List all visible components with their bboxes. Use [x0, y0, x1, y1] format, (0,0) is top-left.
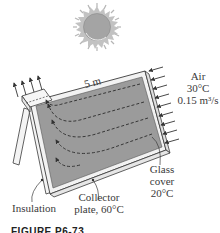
- insulation-label: Insulation: [12, 202, 56, 214]
- air-temp-label: 30°C: [176, 82, 220, 94]
- figure-caption: FIGURE P6-73: [11, 226, 84, 233]
- collector-label-line1: Collector: [74, 191, 124, 203]
- air-flow-rate-label: 0.15 m³/s: [176, 94, 220, 106]
- glass-temp-label: 20°C: [140, 187, 184, 199]
- air-label-line1: Air: [176, 70, 220, 82]
- collector-plate-label: Collector plate, 60°C: [74, 191, 124, 215]
- collector-temp-label: plate, 60°C: [74, 203, 124, 215]
- air-inlet-label: Air 30°C 0.15 m³/s: [176, 70, 220, 106]
- sun-icon: [73, 3, 121, 51]
- solar-collector-figure: 5 m Air 30°C 0.15 m³/s Glass cover 20°C …: [0, 0, 220, 233]
- glass-cover-label: Glass cover 20°C: [140, 163, 184, 199]
- glass-label-line2: cover: [140, 175, 184, 187]
- glass-label-line1: Glass: [140, 163, 184, 175]
